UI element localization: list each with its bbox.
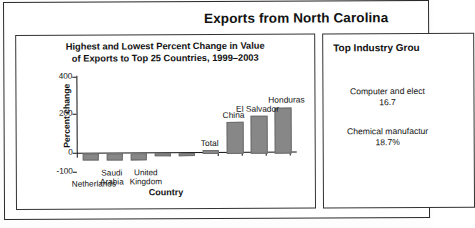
y-tick-minus100 xyxy=(73,171,77,172)
bar-total xyxy=(203,150,219,154)
chart-title: Highest and Lowest Percent Change in Val… xyxy=(16,40,314,64)
bar-chart-plot-area: Percent change 400 200 0 -100 xyxy=(76,75,297,188)
y-tick-label-minus100: -100 xyxy=(56,166,72,175)
chart-panel: Highest and Lowest Percent Change in Val… xyxy=(15,33,316,209)
bar-unlabeled-5 xyxy=(179,153,195,156)
page-title: Exports from North Carolina xyxy=(204,10,454,26)
y-tick-200 xyxy=(73,114,77,115)
document-page: Exports from North Carolina Highest and … xyxy=(3,0,430,220)
industry-item-chemical-value: 18.7% xyxy=(324,136,452,147)
industry-panel-title: Top Industry Grou xyxy=(333,42,420,53)
bar-saudi-arabia xyxy=(107,153,123,161)
x-label-united-kingdom: UnitedKingdom xyxy=(121,168,171,187)
y-tick-label-0: 0 xyxy=(68,147,73,156)
industry-item-computer-name: Computer and elect xyxy=(350,86,425,96)
industry-item-computer: Computer and elect 16.7 xyxy=(323,86,451,108)
y-tick-0 xyxy=(73,152,77,153)
industry-groups-panel: Top Industry Grou Computer and elect 16.… xyxy=(322,33,475,209)
industry-item-computer-value: 16.7 xyxy=(323,96,451,107)
bar-honduras xyxy=(275,107,292,153)
bar-label-el-salvador: El Salvador xyxy=(227,104,289,114)
bar-label-honduras: Honduras xyxy=(258,94,314,104)
y-tick-400 xyxy=(72,76,76,77)
chart-title-line-2: of Exports to Top 25 Countries, 1999–200… xyxy=(16,52,314,65)
bar-netherlands xyxy=(83,153,99,161)
industry-item-chemical-name: Chemical manufactur xyxy=(347,126,428,136)
y-tick-label-200: 200 xyxy=(59,109,73,118)
bar-unlabeled-4 xyxy=(155,153,171,157)
bar-united-kingdom xyxy=(131,153,147,160)
bar-label-total: Total xyxy=(187,138,233,148)
bar-el-salvador xyxy=(251,116,268,153)
industry-item-chemical: Chemical manufactur 18.7% xyxy=(324,126,452,148)
y-tick-label-400: 400 xyxy=(59,71,73,80)
x-axis-title: Country xyxy=(17,186,315,197)
